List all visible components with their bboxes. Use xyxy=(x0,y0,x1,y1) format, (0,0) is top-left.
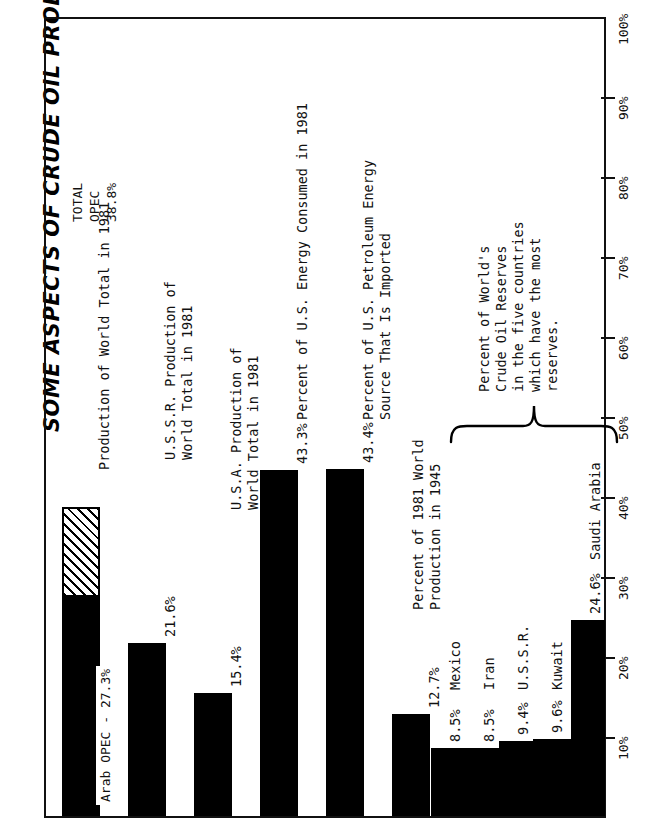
bar-kuwait-value: 9.6% xyxy=(549,700,566,733)
frame-top-edge xyxy=(44,17,606,19)
axis-label-70: 70% xyxy=(616,220,632,280)
axis-label-30: 30% xyxy=(616,540,632,600)
bar-mexico-label: Mexico xyxy=(447,641,464,690)
bar-saudi-arabia-value: 24.6% xyxy=(587,573,604,614)
bar-ussr-production-label-line2: World Total in 1981 xyxy=(179,306,196,460)
chart-canvas: SOME ASPECTS OF CRUDE OIL PRODUCTION 10%… xyxy=(0,0,662,835)
bar-kuwait-label: Kuwait xyxy=(549,641,566,690)
bar-world-production-1945-label-line1: Percent of 1981 World xyxy=(410,439,427,610)
bar-ussr-production-value: 21.6% xyxy=(162,596,179,637)
bar-us-petroleum-imported xyxy=(326,469,364,816)
reserves-note-line5: reserves. xyxy=(544,319,561,392)
bar-us-energy-consumed-value: 43.3% xyxy=(294,423,311,464)
bar-mexico-value: 8.5% xyxy=(447,709,464,742)
axis-label-60: 60% xyxy=(616,300,632,360)
bar-ussr-production-label-line1: U.S.S.R. Production of xyxy=(162,281,179,460)
axis-label-40: 40% xyxy=(616,460,632,520)
reserves-note-line4: which have the most xyxy=(527,238,544,392)
bar-mexico xyxy=(431,748,465,816)
reserves-group-brace xyxy=(449,404,619,444)
bar-opec-category-label: Production of World Total in 1981 xyxy=(96,202,113,470)
axis-tick-70 xyxy=(601,257,615,259)
bar-iran-value: 8.5% xyxy=(481,709,498,742)
bar-us-petroleum-imported-label-line2: Source That Is Imported xyxy=(377,233,394,420)
bar-us-energy-consumed-label: Percent of U.S. Energy Consumed in 1981 xyxy=(294,103,311,420)
bar-ussr-production xyxy=(128,643,166,816)
bar-opec-arab-solid xyxy=(62,597,100,816)
bar-saudi-arabia xyxy=(571,620,605,816)
bar-us-petroleum-imported-label-line1: Percent of U.S. Petroleum Energy xyxy=(360,160,377,420)
bar-ussr-reserves xyxy=(499,741,533,816)
axis-label-80: 80% xyxy=(616,140,632,200)
bar-us-energy-consumed xyxy=(260,470,298,816)
bar-world-production-1945-value: 12.7% xyxy=(426,667,443,708)
axis-label-90: 90% xyxy=(616,60,632,120)
axis-label-20: 20% xyxy=(616,620,632,680)
bar-iran xyxy=(465,748,499,816)
axis-tick-60 xyxy=(601,337,615,339)
bar-ussr-reserves-value: 9.4% xyxy=(515,702,532,735)
bar-opec-total-hatched xyxy=(62,507,100,597)
reserves-note-line2: Crude Oil Reserves xyxy=(493,246,510,392)
bar-world-production-1945-label-line2: Production in 1945 xyxy=(427,464,444,610)
bar-iran-label: Iran xyxy=(481,657,498,690)
bar-usa-production-label-line1: U.S.A. Production of xyxy=(228,347,245,510)
bar-ussr-reserves-label: U.S.S.R. xyxy=(515,625,532,690)
frame-left-edge xyxy=(44,17,46,818)
bar-us-petroleum-imported-value: 43.4% xyxy=(360,422,377,463)
bar-opec-inner-label: Arab OPEC - 27.3% xyxy=(96,666,115,805)
axis-label-10: 10% xyxy=(616,700,632,760)
axis-tick-90 xyxy=(601,97,615,99)
reserves-note-line1: Percent of World's xyxy=(476,246,493,392)
reserves-note-line3: in the five countries xyxy=(510,221,527,392)
bar-kuwait xyxy=(533,739,571,816)
bar-opec-total-label-line1: TOTAL xyxy=(70,183,86,222)
bar-world-production-1945 xyxy=(392,714,430,816)
bar-usa-production xyxy=(194,693,232,816)
axis-tick-80 xyxy=(601,177,615,179)
axis-label-100: 100% xyxy=(616,0,632,45)
bar-saudi-arabia-label: Saudi Arabia xyxy=(587,462,604,560)
frame-baseline xyxy=(44,816,606,818)
bar-usa-production-value: 15.4% xyxy=(228,646,245,687)
